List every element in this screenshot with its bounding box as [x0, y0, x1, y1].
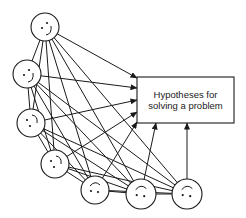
- person-2-face-icon: [13, 60, 41, 88]
- person-7-face-icon: [172, 179, 202, 209]
- arrow-to-hypotheses: [41, 76, 137, 88]
- arrow-to-hypotheses: [45, 100, 137, 120]
- arrow-to-hypotheses: [144, 123, 156, 179]
- arrow-to-hypotheses: [67, 112, 137, 157]
- hypotheses-label-line-2: solving a problem: [148, 100, 222, 112]
- person-1-face-icon: [31, 13, 59, 41]
- hypotheses-label: Hypotheses for solving a problem: [137, 77, 234, 123]
- connection-line: [27, 74, 141, 194]
- person-3-face-icon: [17, 109, 45, 137]
- person-5-face-icon: [81, 176, 109, 204]
- hypotheses-label-line-1: Hypotheses for: [154, 89, 218, 101]
- person-4-face-icon: [41, 150, 69, 178]
- person-6-face-icon: [126, 179, 156, 209]
